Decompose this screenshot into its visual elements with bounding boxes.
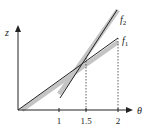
gray-bands [22, 10, 118, 110]
function-lines [18, 10, 118, 110]
theta-axis-arrow-icon [126, 107, 133, 113]
z-axis-label: z [4, 27, 9, 38]
f2-line [60, 10, 117, 98]
z-axis-arrow-icon [15, 25, 21, 32]
f1-label-sub: 1 [125, 40, 129, 48]
tick-label-1: 1 [57, 116, 62, 126]
tick-label-2: 2 [116, 116, 121, 126]
theta-axis-label: θ [137, 105, 142, 116]
diagram: z θ 1 1.5 2 f2 f1 [0, 0, 148, 132]
tick-label-1-5: 1.5 [80, 116, 92, 126]
f1-line [18, 38, 118, 110]
f1-label: f1 [122, 35, 129, 48]
f2-label-sub: 2 [123, 19, 127, 27]
f2-label: f2 [120, 14, 127, 27]
